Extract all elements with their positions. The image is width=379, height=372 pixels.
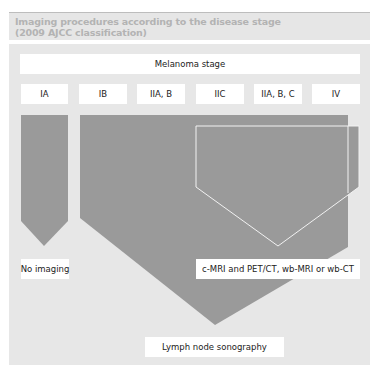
melanoma-stage-header: Melanoma stage [20, 54, 360, 74]
stage-ib: IB [79, 84, 127, 104]
no-imaging-label: No imaging [21, 259, 69, 279]
stage-iic: IIC [196, 84, 244, 104]
stage-iiia-b-c: IIA, B, C [254, 84, 302, 104]
stage-iv: IV [312, 84, 360, 104]
stage-iia-b: IIA, B [137, 84, 185, 104]
lymph-node-sonography-label: Lymph node sonography [145, 337, 284, 357]
advanced-imaging-label: c-MRI and PET/CT, wb-MRI or wb-CT [196, 259, 360, 279]
stage-ia: IA [21, 84, 68, 104]
no-imaging-arrow [21, 115, 68, 246]
